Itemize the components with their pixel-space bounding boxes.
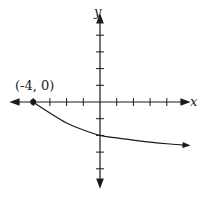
- y-axis-label: y: [93, 4, 102, 19]
- function-curve: [33, 102, 188, 145]
- point-label: (-4, 0): [15, 78, 54, 93]
- closed-endpoint-dot: [30, 99, 36, 105]
- y-axis: [97, 15, 103, 187]
- y-axis-down-arrow-icon: [97, 179, 103, 187]
- x-axis-right-arrow-icon: [181, 99, 189, 105]
- curve-arrow-icon: [182, 142, 190, 148]
- graph: (-4, 0) x y: [0, 0, 207, 199]
- x-axis-left-arrow-icon: [11, 99, 19, 105]
- x-axis-label: x: [190, 94, 198, 109]
